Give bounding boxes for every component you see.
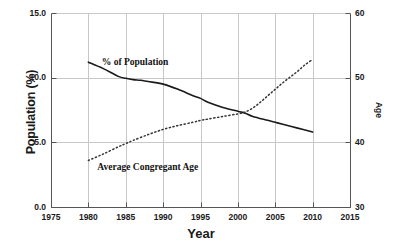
series-label-age: Average Congregant Age <box>97 162 198 172</box>
y-axis-left-tick-label: 0.0 <box>4 202 46 212</box>
y-axis-right-tick-label: 30 <box>355 202 385 212</box>
chart-canvas <box>0 0 396 248</box>
x-axis-title: Year <box>51 226 351 241</box>
x-axis-tick-label: 1990 <box>143 212 183 222</box>
gridlines <box>51 13 350 207</box>
y-axis-right-tick-label: 50 <box>355 72 385 82</box>
series-line-population <box>88 62 312 132</box>
x-axis-tick-label: 2015 <box>330 212 370 222</box>
x-axis-tick-label: 2000 <box>218 212 258 222</box>
y-axis-right-tick-label: 40 <box>355 137 385 147</box>
series-line-age <box>88 60 312 161</box>
y-axis-left-title: Population (%) <box>24 32 38 192</box>
y-axis-right-title: Age <box>374 80 384 140</box>
x-axis-tick-label: 2010 <box>293 212 333 222</box>
y-axis-left-tick-label: 5.0 <box>4 137 46 147</box>
y-axis-left-tick-label: 15.0 <box>4 8 46 18</box>
x-axis-tick-label: 1995 <box>181 212 221 222</box>
chart-container: Population (%) Age Year 0.05.010.015.0 3… <box>0 0 396 248</box>
series-label-population: % of Population <box>102 57 169 67</box>
x-axis-tick-label: 1985 <box>106 212 146 222</box>
y-axis-right-tick-label: 60 <box>355 8 385 18</box>
x-axis-tick-label: 2005 <box>255 212 295 222</box>
x-axis-tick-label: 1980 <box>68 212 108 222</box>
x-axis-tick-label: 1975 <box>31 212 71 222</box>
y-axis-left-tick-label: 10.0 <box>4 72 46 82</box>
